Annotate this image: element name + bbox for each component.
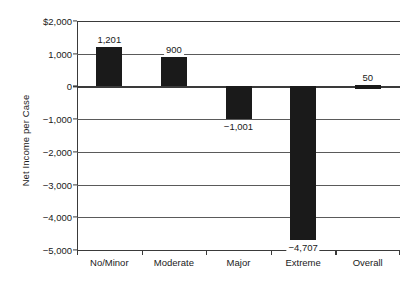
plot-area: $2,0001,0000−1,000−2,000−3,000−4,000−5,0…: [77, 21, 400, 250]
y-tick-mark: [73, 184, 77, 185]
x-tick-mark: [206, 250, 207, 255]
y-tick-label: 1,000: [12, 48, 72, 59]
x-tick-mark: [335, 250, 336, 255]
bar-chart: Net Income per Case $2,0001,0000−1,000−2…: [0, 0, 417, 289]
bar-data-label: −1,001: [222, 121, 255, 132]
bar: [355, 85, 381, 89]
x-tick-mark: [271, 250, 272, 255]
x-axis-label: Moderate: [154, 257, 194, 268]
y-tick-label: −4,000: [12, 212, 72, 223]
y-tick-mark: [73, 151, 77, 152]
gridline: [77, 217, 400, 218]
x-tick-mark: [77, 250, 78, 255]
x-axis-label: No/Minor: [90, 257, 129, 268]
x-tick-mark: [142, 250, 143, 255]
bar-data-label: 50: [360, 72, 375, 83]
y-tick-mark: [73, 217, 77, 218]
y-tick-label: 0: [12, 81, 72, 92]
y-tick-label: $2,000: [12, 16, 72, 27]
y-tick-label: −5,000: [12, 245, 72, 256]
bar-data-label: −4,707: [286, 242, 319, 253]
gridline: [77, 185, 400, 186]
x-axis-label: Extreme: [285, 257, 320, 268]
bar: [96, 47, 122, 86]
gridline: [77, 21, 400, 22]
bar: [226, 86, 252, 119]
gridline: [77, 152, 400, 153]
x-axis-label: Major: [227, 257, 251, 268]
x-tick-mark: [399, 250, 400, 255]
gridline: [77, 54, 400, 55]
gridline: [77, 250, 400, 251]
y-tick-mark: [73, 86, 77, 87]
y-tick-label: −3,000: [12, 179, 72, 190]
bar: [161, 57, 187, 86]
bar: [290, 86, 316, 240]
y-tick-label: −2,000: [12, 146, 72, 157]
y-tick-mark: [73, 119, 77, 120]
bar-data-label: 900: [164, 44, 184, 55]
y-tick-label: −1,000: [12, 114, 72, 125]
bar-data-label: 1,201: [95, 34, 123, 45]
y-tick-mark: [73, 53, 77, 54]
x-axis-label: Overall: [353, 257, 383, 268]
y-tick-mark: [73, 20, 77, 21]
gridline: [77, 119, 400, 120]
